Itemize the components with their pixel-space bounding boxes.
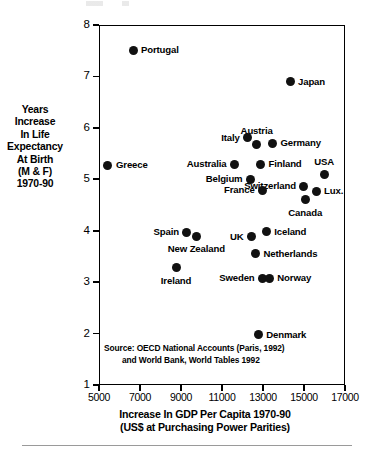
x-axis-title: Increase In GDP Per Capita 1970-90 (US$ … [60, 408, 350, 434]
data-point-marker [312, 187, 321, 196]
data-point-label: Lux. [324, 186, 343, 196]
data-point-label: Sweden [219, 273, 254, 283]
data-point-marker [247, 232, 256, 241]
data-point-label: France [224, 185, 255, 195]
y-axis-tick-label: 2 [70, 328, 90, 339]
data-point-marker [172, 263, 181, 272]
y-axis-tick-label: 1 [70, 379, 90, 390]
data-point-marker [103, 161, 112, 170]
data-point-marker [252, 140, 261, 149]
data-point-marker [262, 227, 271, 236]
data-point-label: Canada [288, 208, 322, 218]
x-axis-tick-label: 11000 [199, 392, 245, 403]
data-point-label: New Zealand [168, 244, 225, 254]
data-point-marker [182, 228, 191, 237]
x-axis-tick-label: 9000 [158, 392, 204, 403]
source-note: Source: OECD National Accounts (Paris, 1… [104, 343, 336, 366]
y-axis-tick-label: 8 [70, 19, 90, 30]
y-axis-title-line: Increase [2, 116, 68, 128]
data-point-marker [301, 195, 310, 204]
data-point-label: Iceland [274, 227, 306, 237]
data-point-marker [265, 274, 274, 283]
data-point-label: UK [230, 232, 244, 242]
data-point-label: Ireland [161, 276, 191, 286]
y-axis-tick-label: 3 [70, 276, 90, 287]
data-point-marker [254, 330, 263, 339]
data-point-marker [299, 182, 308, 191]
x-axis-tick [344, 385, 346, 391]
y-axis-title-line: Years [2, 104, 68, 116]
data-point-label: Australia [187, 159, 227, 169]
y-axis-title: Years Increase In Life Expectancy At Bir… [2, 104, 68, 191]
x-axis-tick-label: 15000 [281, 392, 327, 403]
scatter-chart-figure: Years Increase In Life Expectancy At Bir… [0, 0, 373, 453]
data-point-label: Netherlands [264, 249, 318, 259]
y-axis-tick-label: 4 [70, 225, 90, 236]
x-axis-tick [139, 385, 141, 391]
data-point-label: Portugal [141, 45, 179, 55]
x-axis-tick [262, 385, 264, 391]
page-top-artifact [86, 1, 206, 6]
x-axis-tick-label: 13000 [240, 392, 286, 403]
data-point-label: Japan [298, 77, 325, 87]
data-point-marker [251, 249, 260, 258]
y-axis-title-line: (M & F) [2, 166, 68, 178]
y-axis-tick-label: 5 [70, 173, 90, 184]
y-axis-tick-label: 7 [70, 70, 90, 81]
data-point-marker [286, 77, 295, 86]
x-axis-title-line-2: (US$ at Purchasing Power Parities) [60, 421, 350, 434]
data-point-marker [320, 170, 329, 179]
data-point-label: Norway [277, 273, 311, 283]
y-axis-title-line: At Birth [2, 154, 68, 166]
data-point-label: Finland [269, 159, 302, 169]
data-point-label: Italy [221, 133, 239, 143]
data-point-marker [129, 46, 138, 55]
x-axis-tick [98, 385, 100, 391]
page-bottom-rule [22, 445, 352, 446]
x-axis-title-line-1: Increase In GDP Per Capita 1970-90 [60, 408, 350, 421]
plot-area: PortugalJapanGreeceItalyAustriaGermanyAu… [99, 25, 345, 385]
y-axis-tick-label: 6 [70, 122, 90, 133]
data-point-marker [256, 160, 265, 169]
x-axis-tick-label: 7000 [117, 392, 163, 403]
data-point-label: Denmark [266, 330, 306, 340]
x-axis-tick-label: 17000 [322, 392, 368, 403]
x-axis-tick-label: 5000 [76, 392, 122, 403]
y-axis-title-line: In Life [2, 129, 68, 141]
y-axis-title-line: 1970-90 [2, 178, 68, 190]
data-point-marker [258, 186, 267, 195]
data-point-marker [268, 139, 277, 148]
data-point-label: Spain [154, 227, 179, 237]
data-point-label: Greece [116, 160, 148, 170]
x-axis-tick [180, 385, 182, 391]
data-point-label: Austria [241, 126, 273, 136]
x-axis-tick [221, 385, 223, 391]
source-note-line-2: and World Bank, World Tables 1992 [104, 355, 336, 367]
data-point-marker [192, 232, 201, 241]
data-point-label: USA [314, 157, 334, 167]
data-point-label: Belgium [206, 174, 243, 184]
x-axis-tick [303, 385, 305, 391]
data-point-marker [230, 160, 239, 169]
data-point-label: Germany [280, 138, 321, 148]
source-note-line-1: Source: OECD National Accounts (Paris, 1… [104, 343, 336, 355]
y-axis-title-line: Expectancy [2, 141, 68, 153]
